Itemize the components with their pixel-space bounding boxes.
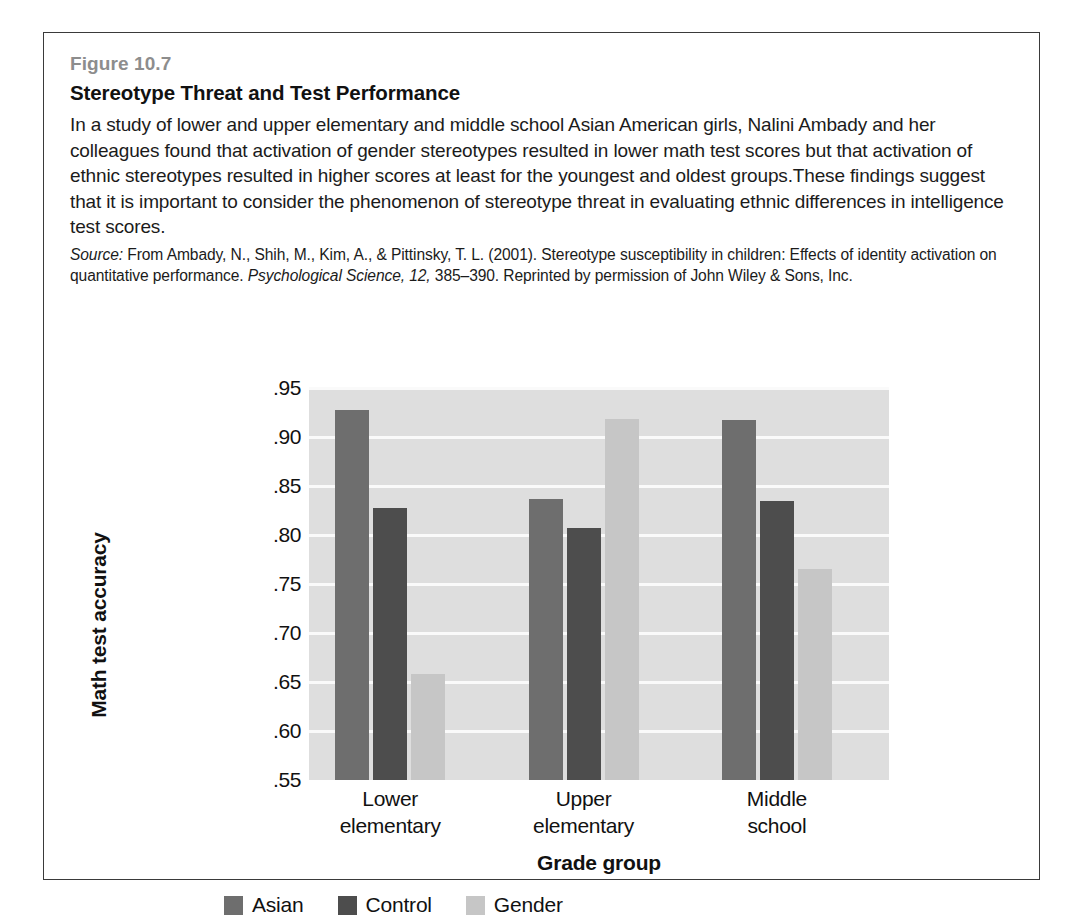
source-text-part2: 385–390. Reprinted by permission of John… [431, 267, 853, 284]
figure-source: Source: From Ambady, N., Shih, M., Kim, … [70, 244, 1010, 286]
bar-control-2 [760, 501, 794, 780]
bar-gender-1 [605, 419, 639, 780]
legend-swatch-icon [224, 896, 243, 915]
x-axis-title: Grade group [309, 851, 889, 875]
x-group-label: Upperelementary [533, 785, 634, 839]
legend-label: Gender [494, 893, 563, 917]
bar-asian-0 [335, 410, 369, 780]
y-axis-title: Math test accuracy [87, 460, 111, 790]
y-tick-label: .80 [249, 523, 301, 547]
y-tick-label: .90 [249, 425, 301, 449]
legend-swatch-icon [466, 896, 485, 915]
bar-asian-2 [722, 420, 756, 780]
chart-legend: AsianControlGender [224, 893, 784, 917]
bar-control-1 [567, 528, 601, 780]
source-journal: Psychological Science, 12, [248, 267, 431, 284]
legend-label: Asian [252, 893, 304, 917]
y-tick-label: .95 [249, 376, 301, 400]
y-axis-tick-labels: .95.90.85.80.75.70.65.60.55 [249, 388, 301, 780]
y-tick-label: .85 [249, 474, 301, 498]
bar-chart: Math test accuracy .95.90.85.80.75.70.65… [44, 333, 1041, 878]
bar-gender-0 [411, 674, 445, 780]
figure-number: Figure 10.7 [70, 53, 1017, 75]
y-tick-label: .70 [249, 621, 301, 645]
legend-item-gender[interactable]: Gender [466, 893, 563, 917]
legend-item-control[interactable]: Control [338, 893, 432, 917]
figure-container: Figure 10.7 Stereotype Threat and Test P… [43, 32, 1040, 880]
x-group-label: Lowerelementary [340, 785, 441, 839]
y-tick-label: .60 [249, 719, 301, 743]
figure-page: Figure 10.7 Stereotype Threat and Test P… [0, 0, 1084, 918]
figure-title: Stereotype Threat and Test Performance [70, 81, 1017, 105]
bar-gender-2 [798, 569, 832, 780]
plot-area [309, 388, 889, 780]
y-tick-label: .55 [249, 768, 301, 792]
x-axis-group-labels: LowerelementaryUpperelementaryMiddlescho… [309, 785, 889, 849]
legend-label: Control [366, 893, 432, 917]
x-group-label: Middleschool [747, 785, 807, 839]
bars-layer [309, 388, 889, 780]
source-label: Source: [70, 246, 123, 263]
y-tick-label: .65 [249, 670, 301, 694]
y-tick-label: .75 [249, 572, 301, 596]
legend-item-asian[interactable]: Asian [224, 893, 304, 917]
bar-asian-1 [529, 499, 563, 780]
figure-description: In a study of lower and upper elementary… [70, 112, 1010, 240]
bar-control-0 [373, 508, 407, 780]
legend-swatch-icon [338, 896, 357, 915]
